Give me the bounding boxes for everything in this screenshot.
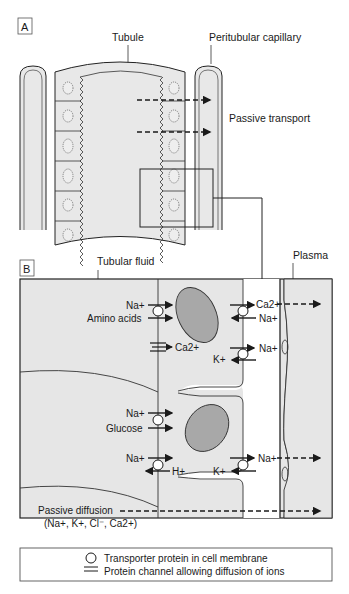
transporter-icon <box>153 460 163 470</box>
passive-transport-label: Passive transport <box>229 112 310 124</box>
transporter-icon <box>238 306 248 316</box>
na-out-label: Na+ <box>259 343 278 354</box>
kidney-tubule-diagram: A Tubule Peritubular capillary <box>0 0 349 594</box>
amino-acids-label: Amino acids <box>87 313 141 324</box>
ca-out-label: Ca2+ <box>256 299 280 310</box>
plasma-label: Plasma <box>293 249 328 261</box>
transporter-icon <box>238 349 248 359</box>
panel-a: A Tubule Peritubular capillary <box>18 18 310 279</box>
na-in-label: Na+ <box>259 313 278 324</box>
k-in-label-2: K+ <box>213 466 226 477</box>
tubule <box>55 62 185 266</box>
passive-diffusion-label: Passive diffusion <box>38 505 113 516</box>
transporter-icon <box>153 415 163 425</box>
transporter-icon <box>238 460 248 470</box>
ca-channel-label: Ca2+ <box>175 342 199 353</box>
panel-b: B Tubular fluid Plasma <box>20 249 332 529</box>
panel-b-label: B <box>23 263 30 275</box>
tubular-fluid-label: Tubular fluid <box>97 255 155 267</box>
k-in-label: K+ <box>213 354 226 365</box>
na-label: Na+ <box>126 300 145 311</box>
left-capillary <box>20 66 46 230</box>
legend-transporter: Transporter protein in cell membrane <box>104 553 268 564</box>
na-h-na-label: Na+ <box>126 453 145 464</box>
transporter-icon <box>86 553 96 563</box>
peritubular-capillary-label: Peritubular capillary <box>209 31 302 43</box>
transporter-icon <box>153 306 163 316</box>
na-glucose-na-label: Na+ <box>126 408 145 419</box>
tubule-label: Tubule <box>112 31 144 43</box>
passive-diffusion-ions: (Na+, K+, Cl⁻, Ca2+) <box>44 518 137 529</box>
legend-channel: Protein channel allowing diffusion of io… <box>104 566 285 577</box>
right-capillary <box>195 66 222 230</box>
glucose-label: Glucose <box>106 423 143 434</box>
panel-a-label: A <box>21 21 29 33</box>
legend: Transporter protein in cell membrane Pro… <box>20 548 332 581</box>
na-out-label-2: Na+ <box>258 453 277 464</box>
h-label: H+ <box>172 466 185 477</box>
